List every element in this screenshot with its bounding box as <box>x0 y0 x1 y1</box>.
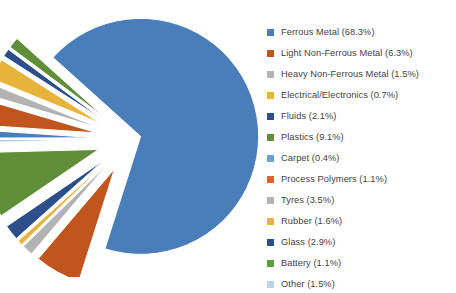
legend-color-swatch <box>267 239 274 246</box>
legend-item[interactable]: Plastics (9.1%) <box>262 127 456 148</box>
legend-item[interactable]: Process Polymers (1.1%) <box>262 169 456 190</box>
legend-item-label: Ferrous Metal (68.3%) <box>281 22 375 43</box>
legend-color-swatch <box>267 197 274 204</box>
legend-item[interactable]: Ferrous Metal (68.3%) <box>262 22 456 43</box>
legend-color-swatch <box>267 260 274 267</box>
legend-color-swatch <box>267 176 274 183</box>
legend-item-label: Carpet (0.4%) <box>281 148 340 169</box>
legend-item-label: Heavy Non-Ferrous Metal (1.5%) <box>281 64 419 85</box>
legend-item-label: Electrical/Electronics (0.7%) <box>281 85 398 106</box>
legend-item[interactable]: Other (1.5%) <box>262 274 456 293</box>
legend-item[interactable]: Carpet (0.4%) <box>262 148 456 169</box>
legend-item-label: Fluids (2.1%) <box>281 106 336 127</box>
legend-item-label: Light Non-Ferrous Metal (6.3%) <box>281 43 413 64</box>
legend-item[interactable]: Heavy Non-Ferrous Metal (1.5%) <box>262 64 456 85</box>
legend-color-swatch <box>267 71 274 78</box>
legend-color-swatch <box>267 218 274 225</box>
legend-color-swatch <box>267 50 274 57</box>
legend-item-label: Tyres (3.5%) <box>281 190 334 211</box>
pie-svg <box>0 0 262 277</box>
legend-color-swatch <box>267 113 274 120</box>
legend-item[interactable]: Tyres (3.5%) <box>262 190 456 211</box>
legend-item[interactable]: Electrical/Electronics (0.7%) <box>262 85 456 106</box>
legend-color-swatch <box>267 92 274 99</box>
legend-color-swatch <box>267 155 274 162</box>
legend-color-swatch <box>267 29 274 36</box>
legend-item-label: Process Polymers (1.1%) <box>281 169 387 190</box>
legend-item[interactable]: Light Non-Ferrous Metal (6.3%) <box>262 43 456 64</box>
legend-item-label: Plastics (9.1%) <box>281 127 344 148</box>
legend-item[interactable]: Rubber (1.6%) <box>262 211 456 232</box>
legend-item[interactable]: Battery (1.1%) <box>262 253 456 274</box>
pie-slice[interactable] <box>0 139 97 142</box>
legend-item-label: Battery (1.1%) <box>281 253 341 274</box>
chart-legend: Ferrous Metal (68.3%)Light Non-Ferrous M… <box>262 0 456 277</box>
legend-item-label: Rubber (1.6%) <box>281 211 342 232</box>
legend-item-label: Glass (2.9%) <box>281 232 335 253</box>
pie-plot-area <box>0 0 262 277</box>
legend-item[interactable]: Fluids (2.1%) <box>262 106 456 127</box>
legend-item-label: Other (1.5%) <box>281 274 335 293</box>
legend-item[interactable]: Glass (2.9%) <box>262 232 456 253</box>
legend-color-swatch <box>267 281 274 288</box>
legend-color-swatch <box>267 134 274 141</box>
